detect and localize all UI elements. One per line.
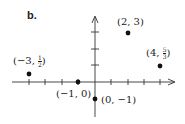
point-neg3-half — [27, 72, 32, 77]
point-2-3 — [126, 31, 131, 36]
point-4-5-3 — [158, 64, 163, 69]
data-points — [27, 31, 163, 102]
point-label-neg1-0: (−1, 0) — [56, 89, 91, 99]
point-neg1-0 — [76, 80, 81, 85]
point-0-neg1 — [93, 97, 98, 102]
point-label-neg3-half: (−3, 12) — [13, 55, 46, 68]
coordinate-plot: b. — [0, 0, 185, 124]
point-label-4-5-3: (4, 53) — [146, 47, 170, 60]
point-label-0-neg1: (0, −1) — [101, 95, 136, 105]
point-label-2-3: (2, 3) — [117, 17, 144, 27]
